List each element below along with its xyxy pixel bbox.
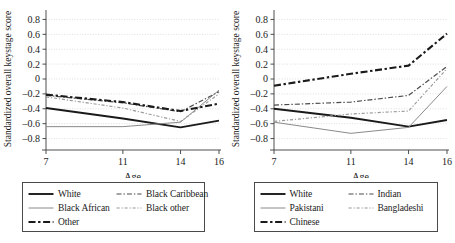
legend-item-label: Black Caribbean bbox=[146, 189, 208, 199]
svg-text:–0.6: –0.6 bbox=[22, 118, 41, 129]
svg-text:0.4: 0.4 bbox=[28, 44, 41, 55]
legend-line-swatch-icon bbox=[260, 203, 286, 213]
legend-item: Chinese bbox=[260, 217, 348, 227]
svg-text:0: 0 bbox=[35, 73, 40, 84]
legend-item-label: Other bbox=[58, 217, 79, 227]
legend-line-swatch-icon bbox=[116, 203, 142, 213]
legend-line-swatch-icon bbox=[348, 189, 374, 199]
legend-line-swatch-icon bbox=[348, 203, 374, 213]
svg-text:–0.2: –0.2 bbox=[249, 88, 268, 99]
legend-item-label: Pakistani bbox=[290, 203, 324, 213]
legend-item: Black other bbox=[116, 203, 210, 213]
legend-item-label: Bangladeshi bbox=[378, 203, 424, 213]
legend-item-label: Black African bbox=[58, 203, 110, 213]
legend-line-swatch-icon bbox=[28, 189, 54, 199]
plot-area-right: 0.80.60.40.20–0.2–0.4–0.6–0.87111416AgeS… bbox=[228, 0, 455, 178]
legend-item: White bbox=[28, 189, 116, 199]
svg-text:0: 0 bbox=[263, 73, 268, 84]
svg-text:Age: Age bbox=[124, 171, 141, 178]
panel-right: 0.80.60.40.20–0.2–0.4–0.6–0.87111416AgeS… bbox=[228, 0, 455, 243]
legend-item: Indian bbox=[348, 189, 442, 199]
line-chart-right: 0.80.60.40.20–0.2–0.4–0.6–0.87111416AgeS… bbox=[228, 0, 455, 178]
legend-item: Black Caribbean bbox=[116, 189, 210, 199]
legend-line-swatch-icon bbox=[28, 217, 54, 227]
svg-text:–0.6: –0.6 bbox=[249, 118, 268, 129]
svg-text:14: 14 bbox=[403, 156, 413, 167]
legend-box-left: WhiteBlack CaribbeanBlack AfricanBlack o… bbox=[22, 182, 205, 232]
legend-line-swatch-icon bbox=[28, 203, 54, 213]
svg-text:7: 7 bbox=[271, 156, 276, 167]
legend-grid-left: WhiteBlack CaribbeanBlack AfricanBlack o… bbox=[28, 187, 199, 229]
legend-line-swatch-icon bbox=[260, 189, 286, 199]
legend-item: Black African bbox=[28, 203, 116, 213]
svg-text:Standardized overall keystage: Standardized overall keystage score bbox=[3, 11, 13, 147]
legend-item-label: White bbox=[58, 189, 81, 199]
legend-grid-right: WhiteIndianPakistaniBangladeshiChinese bbox=[260, 187, 432, 229]
legend-item: Bangladeshi bbox=[348, 203, 442, 213]
svg-text:7: 7 bbox=[44, 156, 49, 167]
svg-text:0.2: 0.2 bbox=[255, 59, 268, 70]
legend-left: WhiteBlack CaribbeanBlack AfricanBlack o… bbox=[0, 178, 228, 243]
svg-text:11: 11 bbox=[346, 156, 356, 167]
legend-item-label: Black other bbox=[146, 203, 189, 213]
legend-item-label: White bbox=[290, 189, 313, 199]
plot-area-left: 0.80.60.40.20–0.2–0.4–0.6–0.87111416AgeS… bbox=[0, 0, 228, 178]
legend-item: Other bbox=[28, 217, 116, 227]
svg-text:0.2: 0.2 bbox=[28, 59, 41, 70]
svg-text:Standardized overall keystage: Standardized overall keystage score bbox=[231, 11, 241, 147]
two-panel-line-chart-figure: 0.80.60.40.20–0.2–0.4–0.6–0.87111416AgeS… bbox=[0, 0, 455, 243]
svg-text:0.4: 0.4 bbox=[255, 44, 268, 55]
legend-item: Pakistani bbox=[260, 203, 348, 213]
legend-item-label: Chinese bbox=[290, 217, 320, 227]
svg-text:0.6: 0.6 bbox=[255, 29, 268, 40]
svg-text:11: 11 bbox=[118, 156, 128, 167]
svg-text:–0.4: –0.4 bbox=[22, 103, 41, 114]
legend-line-swatch-icon bbox=[116, 189, 142, 199]
svg-text:–0.2: –0.2 bbox=[22, 88, 41, 99]
svg-text:0.8: 0.8 bbox=[28, 14, 41, 25]
legend-box-right: WhiteIndianPakistaniBangladeshiChinese bbox=[254, 182, 438, 232]
legend-right: WhiteIndianPakistaniBangladeshiChinese bbox=[228, 178, 455, 243]
svg-text:–0.8: –0.8 bbox=[249, 133, 268, 144]
svg-text:16: 16 bbox=[214, 156, 224, 167]
svg-text:14: 14 bbox=[176, 156, 186, 167]
svg-text:Age: Age bbox=[352, 171, 369, 178]
svg-text:0.8: 0.8 bbox=[255, 14, 268, 25]
panel-left: 0.80.60.40.20–0.2–0.4–0.6–0.87111416AgeS… bbox=[0, 0, 228, 243]
svg-text:16: 16 bbox=[442, 156, 452, 167]
legend-item: White bbox=[260, 189, 348, 199]
legend-line-swatch-icon bbox=[260, 217, 286, 227]
svg-text:–0.4: –0.4 bbox=[249, 103, 268, 114]
svg-text:0.6: 0.6 bbox=[28, 29, 41, 40]
line-chart-left: 0.80.60.40.20–0.2–0.4–0.6–0.87111416AgeS… bbox=[0, 0, 228, 178]
legend-item-label: Indian bbox=[378, 189, 402, 199]
svg-text:–0.8: –0.8 bbox=[22, 133, 41, 144]
